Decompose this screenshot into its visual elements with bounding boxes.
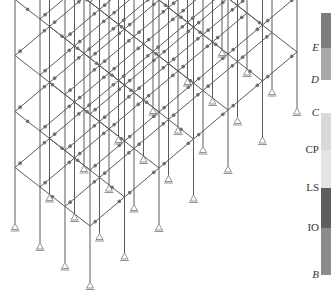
plastic-hinge-icon [197, 21, 201, 25]
plastic-hinge-icon [78, 40, 82, 44]
legend-label-d: D [295, 74, 319, 85]
beam-line [90, 0, 125, 2]
plastic-hinge-icon [196, 37, 200, 41]
plastic-hinge-icon [164, 3, 168, 7]
plastic-hinge-icon [53, 20, 57, 24]
plastic-hinge-icon [128, 79, 132, 83]
fixed-support-icon [149, 108, 158, 116]
plastic-hinge-icon [103, 3, 107, 7]
plastic-hinge-icon [112, 27, 116, 31]
plastic-hinge-icon [77, 56, 81, 60]
plastic-hinge-icon [102, 76, 106, 80]
fixed-support-icon [233, 118, 242, 126]
plastic-hinge-icon [112, 123, 116, 127]
plastic-hinge-icon [68, 88, 72, 92]
fixed-support-icon [268, 89, 277, 97]
plastic-hinge-icon [68, 161, 72, 165]
plastic-hinge-icon [191, 16, 195, 20]
plastic-hinge-icon [181, 9, 185, 13]
legend-segment-IO-B [321, 228, 331, 275]
plastic-hinge-icon [221, 113, 225, 117]
legend-label-io: IO [295, 222, 319, 233]
plastic-hinge-icon [241, 55, 245, 59]
plastic-hinge-icon [103, 171, 107, 175]
plastic-hinge-icon [171, 18, 175, 22]
plastic-hinge-icon [93, 68, 97, 72]
plastic-hinge-icon [112, 83, 116, 87]
plastic-hinge-icon [162, 66, 166, 70]
plastic-hinge-icon [152, 3, 156, 7]
beam-line [178, 0, 213, 15]
plastic-hinge-icon [93, 12, 97, 16]
plastic-hinge-icon [43, 141, 47, 145]
fixed-support-icon [61, 263, 70, 271]
plastic-hinge-icon [179, 15, 183, 19]
fixed-support-icon [224, 166, 233, 174]
plastic-hinge-icon [112, 11, 116, 15]
plastic-hinge-icon [221, 1, 225, 5]
beam-line [65, 207, 90, 227]
fixed-support-icon [86, 282, 95, 290]
plastic-hinge-icon [95, 61, 99, 65]
structural-frame-3d [0, 0, 335, 302]
legend-label-ls: LS [295, 182, 319, 193]
beam-line [203, 91, 228, 111]
plastic-hinge-icon [43, 125, 47, 129]
plastic-hinge-icon [240, 16, 244, 20]
plastic-hinge-icon [231, 104, 235, 108]
plastic-hinge-icon [206, 84, 210, 88]
plastic-hinge-icon [137, 142, 141, 146]
plastic-hinge-icon [68, 49, 72, 53]
plastic-hinge-icon [18, 49, 22, 53]
fixed-support-icon [208, 98, 217, 106]
plastic-hinge-icon [68, 32, 72, 36]
plastic-hinge-icon [181, 65, 185, 69]
fixed-support-icon [120, 253, 129, 261]
fixed-support-icon [11, 224, 20, 232]
fixed-support-icon [130, 205, 139, 213]
plastic-hinge-icon [103, 115, 107, 119]
plastic-hinge-icon [118, 200, 122, 204]
plastic-hinge-icon [129, 88, 133, 92]
fixed-support-icon [36, 243, 45, 251]
fixed-support-icon [80, 166, 89, 174]
legend-label-b: B [295, 269, 319, 280]
fixed-support-icon [199, 147, 208, 155]
plastic-hinge-icon [196, 93, 200, 97]
plastic-hinge-icon [102, 20, 106, 24]
plastic-hinge-icon [187, 142, 191, 146]
plastic-hinge-icon [122, 18, 126, 22]
plastic-hinge-icon [156, 45, 160, 49]
legend-segment-D-E [321, 48, 331, 80]
plastic-hinge-icon [256, 84, 260, 88]
plastic-hinge-icon [87, 47, 91, 51]
plastic-hinge-icon [127, 95, 131, 99]
fixed-support-icon [218, 50, 227, 58]
fixed-support-icon [95, 234, 104, 242]
legend-label-cp: CP [295, 144, 319, 155]
plastic-hinge-icon [128, 191, 132, 195]
plastic-hinge-icon [60, 146, 64, 150]
plastic-hinge-icon [87, 103, 91, 107]
plastic-hinge-icon [162, 162, 166, 166]
plastic-hinge-icon [172, 57, 176, 61]
fixed-support-icon [70, 214, 79, 222]
plastic-hinge-icon [102, 132, 106, 136]
plastic-hinge-icon [162, 50, 166, 54]
plastic-hinge-icon [93, 164, 97, 168]
plastic-hinge-icon [43, 85, 47, 89]
plastic-hinge-icon [68, 144, 72, 148]
plastic-hinge-icon [198, 30, 202, 34]
plastic-hinge-icon [78, 152, 82, 156]
plastic-hinge-icon [85, 110, 89, 114]
plastic-hinge-icon [197, 133, 201, 137]
plastic-hinge-icon [206, 28, 210, 32]
plastic-hinge-icon [118, 88, 122, 92]
plastic-hinge-icon [18, 161, 22, 165]
plastic-hinge-icon [137, 103, 141, 107]
plastic-hinge-icon [265, 35, 269, 39]
plastic-hinge-icon [68, 105, 72, 109]
plastic-hinge-icon [43, 29, 47, 33]
plastic-hinge-icon [127, 39, 131, 43]
plastic-hinge-icon [147, 94, 151, 98]
